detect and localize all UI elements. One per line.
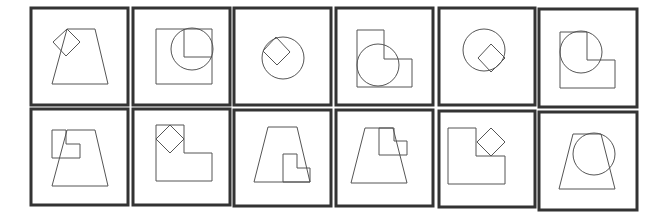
circle-shape	[171, 28, 213, 70]
l-shape-shape	[283, 154, 310, 182]
polyline-shape	[184, 29, 212, 57]
figure-panel-r1c1[interactable]	[31, 8, 128, 105]
figure-panel-r2c5[interactable]	[439, 111, 535, 207]
l-shape-shape	[560, 32, 615, 88]
circle-shape	[262, 37, 304, 79]
shape-puzzle-grid	[0, 0, 659, 216]
panel-frame	[336, 110, 433, 206]
l-shape-shape	[379, 128, 407, 155]
figure-panel-r2c6[interactable]	[539, 112, 637, 210]
circle-shape	[560, 31, 602, 73]
panel-frame	[31, 8, 128, 105]
trapezoid-shape	[254, 127, 310, 182]
circle-shape	[357, 44, 399, 86]
diamond-shape	[156, 125, 184, 153]
figure-panel-r1c2[interactable]	[133, 8, 230, 105]
panel-frame	[133, 109, 230, 205]
figure-panel-r1c6[interactable]	[539, 9, 637, 107]
panel-frame	[539, 112, 637, 210]
diamond-shape	[263, 37, 290, 65]
figure-panel-r2c4[interactable]	[336, 110, 433, 206]
l-shape-shape	[357, 30, 412, 87]
panel-frame	[439, 111, 535, 207]
diamond-shape	[53, 29, 80, 56]
figure-panel-r2c3[interactable]	[234, 110, 331, 206]
panel-frame	[133, 8, 230, 105]
panel-frame	[439, 8, 535, 105]
figure-panel-r2c1[interactable]	[31, 109, 128, 205]
diamond-shape	[478, 44, 505, 72]
circle-shape	[573, 133, 615, 175]
figure-panel-r1c4[interactable]	[336, 8, 433, 105]
diamond-shape	[477, 128, 505, 156]
figure-panel-r1c5[interactable]	[439, 8, 535, 105]
figure-panel-r1c3[interactable]	[234, 8, 331, 105]
l-shape-shape	[156, 125, 212, 181]
l-shape-shape	[448, 128, 505, 184]
trapezoid-shape	[52, 29, 108, 84]
figure-panel-r2c2[interactable]	[133, 109, 230, 205]
trapezoid-shape	[559, 134, 615, 189]
l-shape-shape	[52, 130, 80, 158]
panel-frame	[539, 9, 637, 107]
panel-frame	[234, 8, 331, 105]
